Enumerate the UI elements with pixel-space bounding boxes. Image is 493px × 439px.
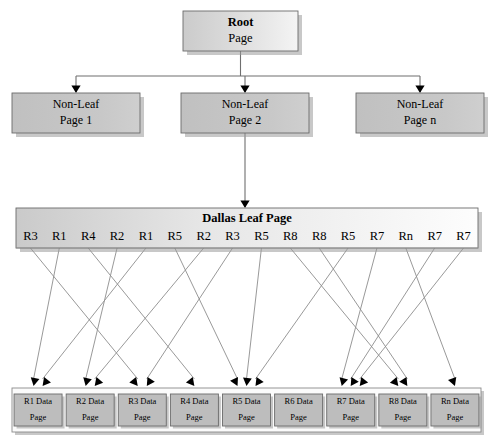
datapage-label-9-line1: Rn Data bbox=[441, 396, 469, 406]
leaf-slot-3-to-datapage-4-connector bbox=[88, 248, 194, 379]
datapage-label-3-line2: Page bbox=[134, 412, 151, 422]
arrowhead-shape bbox=[129, 377, 141, 389]
leaf-slot-15[interactable]: R7 bbox=[427, 229, 442, 243]
arrowhead-shape bbox=[81, 377, 91, 387]
leaf-slot-10[interactable]: R8 bbox=[283, 229, 298, 243]
arrowhead-shape bbox=[390, 377, 402, 389]
leaf-to-datapage-connectors-group bbox=[29, 248, 463, 389]
leaf-slot-1[interactable]: R3 bbox=[23, 229, 38, 243]
leaf-slot-9-to-datapage-5-connector bbox=[247, 248, 262, 379]
arrowhead-shape bbox=[186, 377, 198, 389]
arrowhead-icon bbox=[347, 377, 359, 388]
root-page-label-line1: Root bbox=[228, 15, 255, 29]
arrowhead-icon bbox=[186, 377, 198, 389]
leaf-slot-7-to-datapage-2-connector bbox=[95, 248, 204, 379]
leaf-slot-2[interactable]: R1 bbox=[52, 229, 67, 243]
arrowhead-icon bbox=[39, 377, 51, 389]
leaf-slot-8-to-datapage-3-connector bbox=[147, 248, 233, 379]
datapage-label-6-line2: Page bbox=[290, 412, 307, 422]
arrowhead-icon bbox=[252, 377, 264, 389]
nonleaf-page-label-1-line2: Page 1 bbox=[60, 113, 92, 127]
leaf-slot-14[interactable]: Rn bbox=[399, 229, 414, 243]
arrowhead-icon bbox=[399, 377, 411, 389]
arrowhead-shape bbox=[356, 377, 368, 389]
datapage-label-7-line1: R7 Data bbox=[337, 396, 365, 406]
leaf-slot-5[interactable]: R1 bbox=[139, 229, 154, 243]
root-page-label-line2: Page bbox=[228, 31, 253, 45]
arrowhead-shape bbox=[91, 377, 103, 389]
leaf-slot-12-to-datapage-5-connector bbox=[256, 248, 349, 379]
leaf-slot-3[interactable]: R4 bbox=[81, 229, 96, 243]
arrowhead-shape bbox=[252, 377, 264, 389]
arrowhead-icon bbox=[71, 86, 80, 94]
arrowhead-shape bbox=[448, 377, 459, 388]
arrowhead-icon bbox=[29, 377, 39, 387]
arrowhead-shape bbox=[399, 377, 411, 389]
datapage-label-8-line1: R8 Data bbox=[389, 396, 417, 406]
datapage-label-8-line2: Page bbox=[395, 412, 412, 422]
arrowhead-icon bbox=[81, 377, 91, 387]
arrowhead-shape bbox=[230, 377, 241, 388]
nonleaf-page-label-3-line1: Non-Leaf bbox=[397, 97, 444, 111]
datapage-label-5-line1: R5 Data bbox=[232, 396, 260, 406]
arrowhead-icon bbox=[390, 377, 402, 389]
datapage-label-1-line2: Page bbox=[30, 412, 47, 422]
leaf-slot-6[interactable]: R5 bbox=[168, 229, 183, 243]
arrowhead-icon bbox=[91, 377, 103, 389]
leaf-slot-4-to-datapage-2-connector bbox=[86, 248, 117, 379]
arrowhead-icon bbox=[240, 86, 249, 94]
nonleaf-page-label-2-line1: Non-Leaf bbox=[222, 97, 269, 111]
datapage-label-4-line2: Page bbox=[186, 412, 203, 422]
leaf-slot-12[interactable]: R5 bbox=[341, 229, 356, 243]
arrowhead-icon bbox=[356, 377, 368, 389]
leaf-slot-13-to-datapage-7-connector bbox=[342, 248, 377, 379]
leaf-slot-11[interactable]: R8 bbox=[312, 229, 327, 243]
nodes-group: RootPageNon-LeafPage 1Non-LeafPage 2Non-… bbox=[12, 11, 488, 435]
leaf-slot-13[interactable]: R7 bbox=[370, 229, 385, 243]
leaf-slot-7[interactable]: R2 bbox=[196, 229, 211, 243]
arrowhead-shape bbox=[347, 377, 359, 388]
leaf-slot-4[interactable]: R2 bbox=[110, 229, 125, 243]
arrowhead-icon bbox=[415, 86, 424, 94]
arrowhead-icon bbox=[129, 377, 141, 389]
datapage-label-2-line1: R2 Data bbox=[76, 396, 104, 406]
datapage-label-1-line1: R1 Data bbox=[24, 396, 52, 406]
datapage-label-5-line2: Page bbox=[238, 412, 255, 422]
arrowhead-shape bbox=[143, 377, 155, 389]
arrowhead-icon bbox=[240, 201, 249, 209]
datapage-label-7-line2: Page bbox=[342, 412, 359, 422]
leaf-slot-16[interactable]: R7 bbox=[456, 229, 471, 243]
nonleaf-page-label-1-line1: Non-Leaf bbox=[53, 97, 100, 111]
datapage-label-6-line1: R6 Data bbox=[285, 396, 313, 406]
datapage-label-9-line2: Page bbox=[447, 412, 464, 422]
leaf-slot-5-to-datapage-1-connector bbox=[43, 248, 146, 379]
dallas-leaf-page-title: Dallas Leaf Page bbox=[202, 211, 292, 225]
arrowhead-icon bbox=[337, 377, 348, 387]
arrowhead-icon bbox=[448, 377, 459, 388]
arrowhead-shape bbox=[337, 377, 348, 387]
leaf-slot-10-to-datapage-8-connector bbox=[290, 248, 398, 379]
datapage-label-3-line1: R3 Data bbox=[128, 396, 156, 406]
arrowhead-shape bbox=[39, 377, 51, 389]
arrowhead-icon bbox=[143, 377, 155, 389]
nonleaf-page-label-3-line2: Page n bbox=[404, 113, 436, 127]
arrowhead-shape bbox=[29, 377, 39, 387]
arrowhead-icon bbox=[242, 378, 252, 387]
datapage-label-2-line2: Page bbox=[82, 412, 99, 422]
nonleaf-page-label-2-line2: Page 2 bbox=[229, 113, 261, 127]
leaf-slot-8[interactable]: R3 bbox=[225, 229, 240, 243]
leaf-slot-9[interactable]: R5 bbox=[254, 229, 269, 243]
datapage-label-4-line1: R4 Data bbox=[180, 396, 208, 406]
arrowhead-icon bbox=[230, 377, 241, 388]
leaf-slot-6-to-datapage-5-connector bbox=[175, 248, 238, 379]
diagram-svg: RootPageNon-LeafPage 1Non-LeafPage 2Non-… bbox=[0, 0, 493, 439]
diagram-canvas: RootPageNon-LeafPage 1Non-LeafPage 2Non-… bbox=[0, 0, 493, 439]
arrowhead-shape bbox=[242, 378, 252, 387]
